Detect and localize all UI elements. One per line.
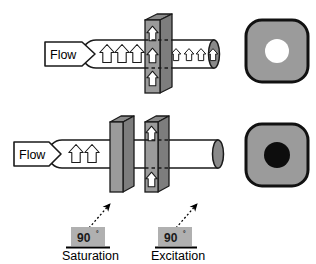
saturation-caption: Saturation [62, 249, 119, 263]
saturation-pulse-degree-symbol: ° [96, 230, 99, 237]
diagram-canvas: Flow [0, 0, 316, 264]
top-excitation-slab [145, 14, 172, 93]
excitation-pulse-degree-symbol: ° [183, 230, 186, 237]
saturation-pulse-angle: 90 [77, 231, 91, 245]
dark-vessel-dot [264, 142, 290, 168]
bottom-excitation-slab [145, 116, 169, 192]
top-flow-label: Flow [50, 48, 77, 62]
dark-signal-image [246, 124, 308, 186]
excitation-pulse-angle: 90 [164, 231, 178, 245]
bright-signal-image [246, 20, 308, 82]
flow-saturation-diagram: Flow [0, 0, 316, 264]
excitation-caption: Excitation [151, 249, 205, 263]
saturation-slab [110, 116, 134, 192]
top-upstream-spins [100, 45, 144, 63]
bright-vessel-dot [265, 39, 289, 63]
bottom-tube-end-cap [213, 140, 224, 168]
bottom-flow-label: Flow [19, 148, 46, 162]
